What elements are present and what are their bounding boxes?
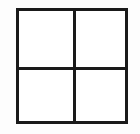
bottom-right-cell xyxy=(76,70,125,121)
bottom-left-cell xyxy=(19,70,73,121)
top-right-cell xyxy=(76,11,125,67)
figure-canvas xyxy=(0,0,140,134)
vertical-divider xyxy=(73,8,76,124)
horizontal-divider xyxy=(16,67,128,70)
top-left-cell xyxy=(19,11,73,67)
